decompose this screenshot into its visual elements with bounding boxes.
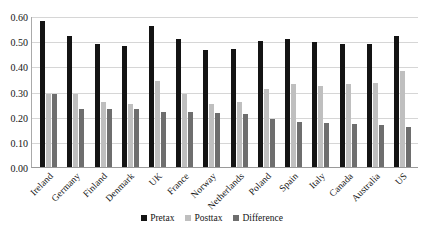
bar-pretax [40,21,45,167]
plot-area [31,17,418,168]
bar-posttax [346,84,351,167]
y-axis-tick-label: 0.30 [0,87,28,98]
bar-group [171,17,198,167]
bar-posttax [291,84,296,167]
x-axis-tick-label: US [394,171,410,187]
bar-pretax [285,39,290,167]
bar-posttax [155,81,160,167]
bar-difference [215,113,220,167]
bar-difference [406,127,411,167]
bar-difference [270,119,275,167]
legend-label: Pretax [150,213,174,223]
bar-difference [107,109,112,167]
bar-pretax [95,44,100,167]
bar-group [226,17,253,167]
legend-label: Posttax [194,213,222,223]
bar-pretax [258,41,263,167]
bar-group [280,17,307,167]
bar-difference [52,94,57,167]
bar-posttax [128,104,133,167]
bar-group [362,17,389,167]
x-axis-tick-label: Italy [308,171,328,191]
bar-difference [79,109,84,167]
bar-difference [352,124,357,167]
bar-group [253,17,280,167]
bars-layer [32,17,418,167]
bar-pretax [312,42,317,167]
y-axis-tick-label: 0.00 [0,163,28,174]
bar-group [35,17,62,167]
legend-swatch-icon [185,215,191,221]
y-axis-tick-label: 0.40 [0,62,28,73]
bar-group [144,17,171,167]
bar-difference [324,123,329,167]
bar-pretax [203,50,208,167]
bar-difference [243,114,248,167]
bar-group [89,17,116,167]
bar-pretax [149,26,154,167]
y-axis-tick-label: 0.50 [0,37,28,48]
legend-item-posttax[interactable]: Posttax [185,213,222,223]
bar-difference [188,112,193,167]
bar-pretax [176,39,181,167]
bar-posttax [264,89,269,167]
legend-item-pretax[interactable]: Pretax [141,213,174,223]
bar-posttax [46,94,51,167]
bar-group [307,17,334,167]
bar-chart: 0.000.100.200.300.400.500.60 IrelandGerm… [0,0,424,235]
legend-swatch-icon [141,215,147,221]
bar-difference [161,112,166,167]
y-axis-tick-label: 0.60 [0,12,28,23]
bar-posttax [318,86,323,167]
legend-item-difference[interactable]: Difference [233,213,282,223]
bar-posttax [101,102,106,167]
x-axis-tick-label: Spain [278,171,301,194]
bar-posttax [373,83,378,167]
bar-pretax [394,36,399,167]
bar-posttax [73,94,78,167]
y-axis-tick-label: 0.10 [0,137,28,148]
x-axis-tick-label: UK [147,171,164,188]
bar-group [117,17,144,167]
bar-pretax [367,44,372,167]
bar-group [198,17,225,167]
bar-pretax [231,49,236,167]
legend-swatch-icon [233,215,239,221]
bar-group [389,17,416,167]
legend: PretaxPosttaxDifference [0,213,424,223]
bar-pretax [67,36,72,167]
bar-difference [297,122,302,167]
bar-difference [379,125,384,167]
bar-posttax [182,94,187,167]
legend-label: Difference [242,213,282,223]
bar-group [334,17,361,167]
bar-posttax [209,104,214,167]
bar-difference [134,109,139,167]
bar-group [62,17,89,167]
bar-pretax [340,44,345,167]
bar-posttax [237,102,242,167]
bar-pretax [122,46,127,167]
bar-posttax [400,71,405,167]
y-axis-tick-label: 0.20 [0,112,28,123]
